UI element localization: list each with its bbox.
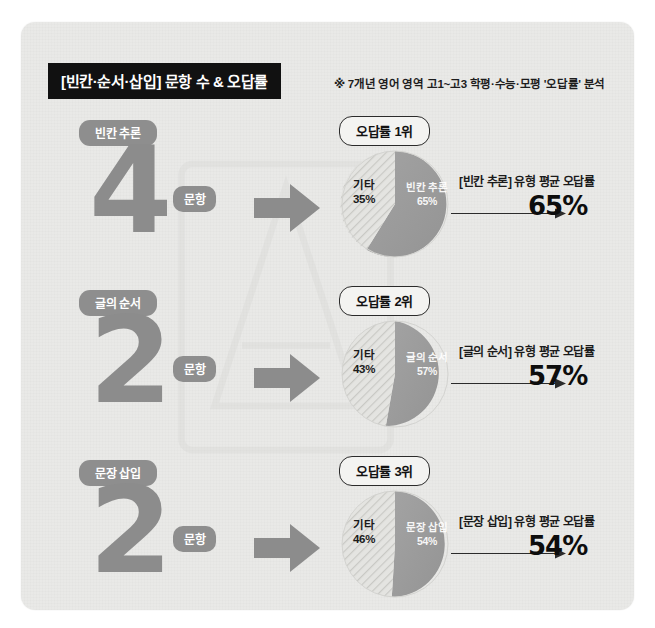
pie-slice-main-label: 빈칸 추론 65% xyxy=(399,180,455,208)
stat-row: 빈칸 추론 4 문항 오답률 1위 xyxy=(21,100,634,270)
callout-value: 54% xyxy=(528,531,587,561)
question-count: 4 xyxy=(89,138,169,244)
pie-other-pct: 43% xyxy=(353,363,375,375)
pie-main-name: 문장 삽입 xyxy=(406,521,447,533)
callout-value: 57% xyxy=(528,361,587,391)
pie-slice-other-label: 기타 35% xyxy=(346,178,382,206)
pie-slice-main-label: 문장 삽입 54% xyxy=(399,520,455,548)
pie-main-pct: 57% xyxy=(417,365,437,377)
rank-badge: 오답률 3위 xyxy=(339,456,430,486)
unit-badge: 문항 xyxy=(173,526,216,552)
callout-value: 65% xyxy=(528,191,587,221)
stat-row: 글의 순서 2 문항 오답률 2위 xyxy=(21,270,634,440)
unit-badge: 문항 xyxy=(173,186,216,212)
page-subtitle: ※ 7개년 영어 영역 고1~고3 학평·수능·모평 '오답률' 분석 xyxy=(334,75,605,91)
pie-other-pct: 46% xyxy=(353,533,375,545)
pie-slice-main-label: 글의 순서 57% xyxy=(399,350,455,378)
stat-row: 문장 삽입 2 문항 오답률 3위 xyxy=(21,440,634,610)
flow-arrow-icon xyxy=(254,182,320,234)
pie-slice-other-label: 기타 43% xyxy=(346,348,382,376)
pie-main-name: 글의 순서 xyxy=(406,351,447,363)
page-title: [빈칸·순서·삽입] 문항 수 & 오답률 xyxy=(48,63,281,99)
question-count: 2 xyxy=(89,308,169,414)
flow-arrow-icon xyxy=(254,352,320,404)
question-count: 2 xyxy=(89,478,169,584)
callout-caption: [문장 삽입] 유형 평균 오답률 xyxy=(459,512,595,529)
flow-arrow-icon xyxy=(254,522,320,574)
pie-main-pct: 54% xyxy=(417,535,437,547)
pie-slice-other-label: 기타 46% xyxy=(346,518,382,546)
callout-caption: [빈칸 추론] 유형 평균 오답률 xyxy=(459,172,595,189)
pie-main-pct: 65% xyxy=(417,195,437,207)
callout-caption: [글의 순서] 유형 평균 오답률 xyxy=(459,342,595,359)
pie-other-name: 기타 xyxy=(353,349,374,361)
unit-badge: 문항 xyxy=(173,356,216,382)
pie-other-pct: 35% xyxy=(353,193,375,205)
pie-other-name: 기타 xyxy=(353,179,374,191)
infographic-card: [빈칸·순서·삽입] 문항 수 & 오답률 ※ 7개년 영어 영역 고1~고3 … xyxy=(21,22,634,610)
rank-badge: 오답률 2위 xyxy=(339,286,430,316)
infographic-canvas: [빈칸·순서·삽입] 문항 수 & 오답률 ※ 7개년 영어 영역 고1~고3 … xyxy=(0,0,655,628)
pie-main-name: 빈칸 추론 xyxy=(406,181,447,193)
pie-other-name: 기타 xyxy=(353,519,374,531)
rank-badge: 오답률 1위 xyxy=(339,116,430,146)
